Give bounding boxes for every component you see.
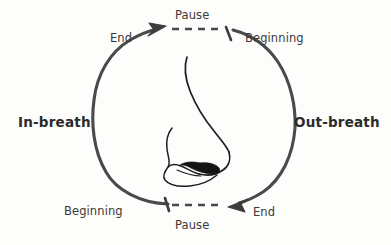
nostril-wing-line xyxy=(164,128,217,186)
label-beginning-top: Beginning xyxy=(245,32,304,45)
label-end-top: End xyxy=(110,32,132,45)
label-beginning-bottom: Beginning xyxy=(64,205,123,218)
out-breath-arc xyxy=(233,30,295,203)
out-breath-arrowhead xyxy=(228,199,248,212)
breathing-cycle-diagram: Pause End Beginning In-breath Out-breath… xyxy=(0,0,391,245)
label-pause-bottom: Pause xyxy=(175,219,209,232)
nose-profile-icon xyxy=(164,57,230,186)
label-out-breath: Out-breath xyxy=(294,115,380,130)
in-breath-arc xyxy=(93,29,168,204)
nose-bridge-line xyxy=(185,57,229,152)
out-breath-begin-tick xyxy=(226,27,231,40)
label-end-bottom: End xyxy=(253,206,275,219)
label-pause-top: Pause xyxy=(175,9,209,22)
label-in-breath: In-breath xyxy=(18,115,91,130)
